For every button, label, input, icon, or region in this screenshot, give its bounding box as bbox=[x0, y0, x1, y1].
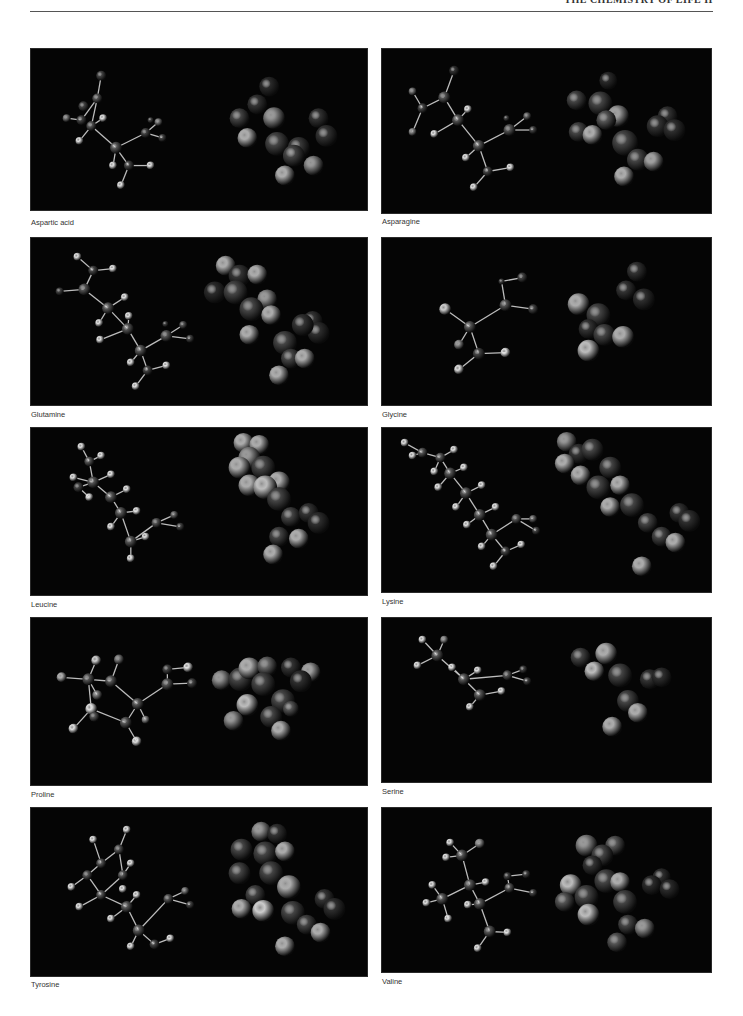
atom bbox=[506, 164, 514, 172]
atom bbox=[114, 655, 124, 665]
atom bbox=[186, 901, 194, 909]
atom-sphere bbox=[231, 839, 253, 861]
atom bbox=[56, 287, 64, 295]
atom bbox=[458, 673, 470, 685]
atom bbox=[115, 507, 127, 519]
atom-sphere bbox=[295, 349, 315, 369]
atom-sphere bbox=[212, 670, 232, 690]
atom bbox=[117, 181, 125, 189]
atom bbox=[501, 547, 511, 557]
atom-sphere bbox=[666, 533, 686, 553]
atom-sphere bbox=[578, 340, 600, 362]
ball-and-stick-model bbox=[57, 655, 197, 747]
atom bbox=[89, 836, 97, 844]
atom bbox=[142, 716, 150, 724]
atom bbox=[434, 483, 442, 491]
atom-sphere bbox=[283, 145, 305, 167]
atom-sphere bbox=[595, 643, 617, 665]
atom-sphere bbox=[568, 293, 590, 315]
atom bbox=[155, 118, 163, 126]
atom bbox=[409, 88, 417, 96]
atom-sphere bbox=[269, 365, 289, 385]
atom bbox=[121, 293, 129, 301]
atom bbox=[162, 362, 170, 370]
atom-sphere bbox=[607, 932, 627, 952]
atom-sphere bbox=[251, 672, 275, 696]
atom bbox=[124, 161, 134, 171]
atom bbox=[148, 117, 154, 123]
atom-sphere bbox=[275, 166, 295, 186]
molecule-panel-glycine bbox=[381, 237, 712, 406]
atom-sphere bbox=[660, 879, 680, 899]
atom-sphere bbox=[620, 493, 644, 517]
atom bbox=[401, 439, 409, 447]
atom bbox=[474, 689, 486, 701]
atom bbox=[444, 468, 456, 480]
atom bbox=[504, 115, 510, 121]
atom bbox=[500, 299, 512, 311]
atom bbox=[409, 128, 417, 136]
atom-sphere bbox=[571, 466, 591, 486]
atom bbox=[107, 470, 115, 478]
atom bbox=[409, 452, 417, 460]
atom-sphere bbox=[309, 108, 329, 128]
atom-sphere bbox=[633, 288, 655, 310]
molecule-panel-asparagine bbox=[381, 48, 712, 214]
atom bbox=[462, 154, 470, 162]
atom bbox=[99, 114, 107, 122]
atom bbox=[162, 664, 172, 674]
atom-sphere bbox=[596, 110, 616, 130]
space-filling-model bbox=[568, 262, 655, 362]
atom-sphere bbox=[267, 824, 287, 844]
atom bbox=[127, 942, 135, 950]
atom bbox=[91, 656, 101, 666]
atom bbox=[430, 130, 438, 138]
molecule-image bbox=[382, 238, 711, 405]
atom bbox=[423, 899, 431, 907]
atom bbox=[76, 137, 84, 145]
atom bbox=[522, 870, 530, 878]
atom bbox=[504, 124, 516, 136]
atom bbox=[95, 319, 103, 327]
atom bbox=[78, 283, 90, 295]
atom-sphere bbox=[632, 556, 652, 576]
atom bbox=[484, 926, 496, 938]
atom-sphere bbox=[275, 842, 295, 862]
molecule-panel-lysine bbox=[381, 427, 712, 593]
atom bbox=[122, 323, 134, 335]
ball-and-stick-model bbox=[401, 439, 540, 570]
atom-sphere bbox=[247, 265, 267, 285]
atom-sphere bbox=[230, 108, 250, 128]
atom bbox=[450, 446, 458, 454]
atom bbox=[69, 724, 79, 734]
atom-sphere bbox=[292, 314, 314, 336]
atom-sphere bbox=[304, 156, 324, 176]
atom-sphere bbox=[664, 119, 686, 141]
atom bbox=[517, 541, 525, 549]
atom-sphere bbox=[616, 280, 636, 300]
ball-and-stick-model bbox=[68, 826, 194, 951]
atom bbox=[505, 883, 515, 893]
atom bbox=[96, 890, 106, 900]
atom bbox=[162, 321, 168, 327]
ball-and-stick-model bbox=[439, 273, 538, 375]
atom bbox=[464, 105, 472, 113]
atom-sphere bbox=[618, 915, 638, 935]
atom bbox=[147, 162, 155, 170]
atom bbox=[474, 944, 482, 952]
molecule-image bbox=[31, 49, 367, 210]
atom bbox=[123, 485, 131, 493]
atom bbox=[132, 698, 144, 710]
atom bbox=[474, 898, 486, 910]
atom bbox=[159, 134, 167, 142]
space-filling-model bbox=[204, 256, 329, 385]
atom-sphere bbox=[593, 324, 615, 346]
atom bbox=[448, 663, 456, 671]
atom bbox=[133, 507, 141, 515]
atom bbox=[170, 511, 178, 519]
atom-sphere bbox=[247, 94, 267, 114]
atom bbox=[132, 382, 140, 390]
caption-leucine: Leucine bbox=[31, 600, 57, 609]
caption-valine: Valine bbox=[382, 977, 402, 986]
atom bbox=[92, 690, 102, 700]
